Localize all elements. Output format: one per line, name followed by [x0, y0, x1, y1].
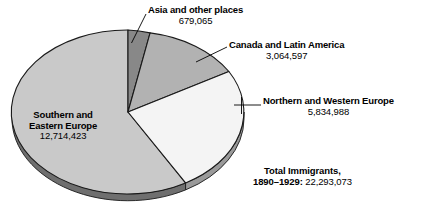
slice-label-canada: Canada and Latin America 3,064,597: [229, 40, 344, 61]
pie-chart-figure: Asia and other places 679,065 Canada and…: [0, 0, 422, 212]
slice-label-asia-value: 679,065: [148, 16, 243, 27]
slice-label-northern-value: 5,834,988: [263, 107, 394, 118]
slice-label-asia: Asia and other places 679,065: [148, 5, 243, 26]
total-immigrants-value: 22,293,073: [305, 176, 352, 187]
slice-label-northern: Northern and Western Europe 5,834,988: [263, 96, 394, 117]
slice-label-southern: Southern and Eastern Europe 12,714,423: [29, 110, 97, 142]
total-immigrants-detail: 1890–1929: 22,293,073: [253, 177, 352, 188]
total-immigrants-block: Total Immigrants, 1890–1929: 22,293,073: [253, 166, 352, 187]
slice-label-canada-value: 3,064,597: [229, 51, 344, 62]
slice-label-southern-value: 12,714,423: [29, 131, 97, 142]
total-immigrants-period: 1890–1929:: [253, 176, 303, 187]
